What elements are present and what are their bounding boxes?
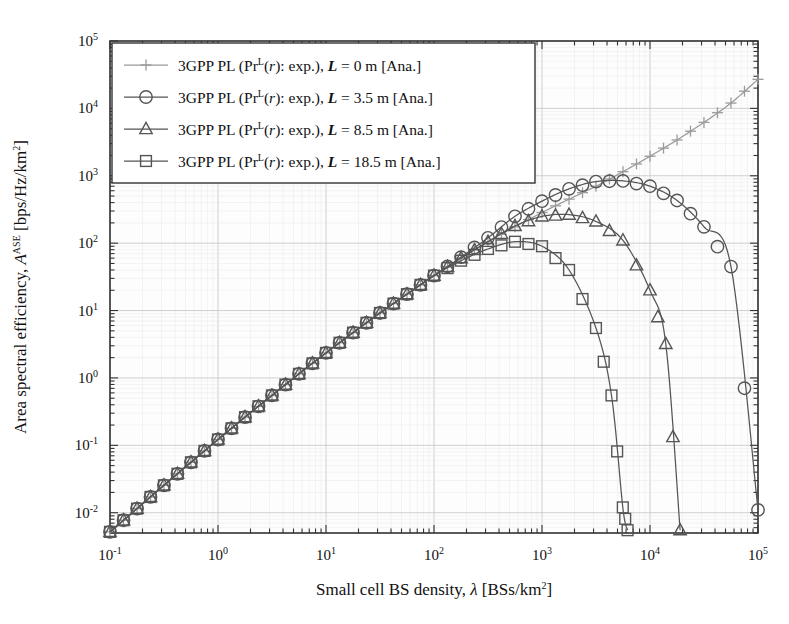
x-axis-label: Small cell BS density, λ [BSs/km2] [316, 580, 552, 599]
chart-legend: 3GPP PL (PrL(r): exp.), L = 0 m [Ana.]3G… [112, 43, 535, 183]
legend-label-2: 3GPP PL (PrL(r): exp.), L = 8.5 m [Ana.] [178, 120, 433, 139]
legend-label-0: 3GPP PL (PrL(r): exp.), L = 0 m [Ana.] [178, 56, 421, 75]
ase-vs-density-chart: 10-1100101102103104105 10-210-1100101102… [0, 0, 789, 624]
legend-label-3: 3GPP PL (PrL(r): exp.), L = 18.5 m [Ana.… [178, 152, 441, 171]
y-axis-label: Area spectral efficiency, AASE [bps/Hz/k… [11, 140, 30, 434]
legend-label-1: 3GPP PL (PrL(r): exp.), L = 3.5 m [Ana.] [178, 88, 433, 107]
figure-container: 10-1100101102103104105 10-210-1100101102… [0, 0, 789, 624]
